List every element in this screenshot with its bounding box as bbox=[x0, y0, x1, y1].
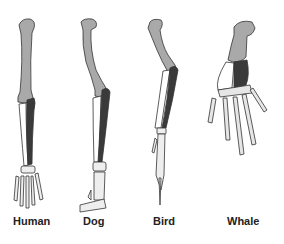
bird-hand bbox=[152, 128, 166, 205]
label-human: Human bbox=[13, 215, 50, 227]
label-whale: Whale bbox=[227, 215, 259, 227]
whale-limb bbox=[208, 21, 267, 155]
human-ulna bbox=[27, 98, 35, 165]
whale-radius bbox=[217, 62, 234, 90]
label-dog: Dog bbox=[83, 215, 104, 227]
whale-humerus bbox=[228, 21, 255, 62]
human-limb bbox=[14, 19, 43, 208]
dog-paw bbox=[80, 162, 106, 212]
label-bird: Bird bbox=[153, 215, 175, 227]
dog-limb bbox=[80, 19, 110, 212]
human-humerus bbox=[18, 19, 35, 103]
bird-limb bbox=[148, 19, 178, 205]
whale-ulna bbox=[234, 60, 248, 88]
dog-humerus bbox=[81, 19, 106, 97]
whale-flipper bbox=[208, 85, 267, 155]
bird-humerus bbox=[148, 19, 176, 72]
human-hand bbox=[14, 166, 43, 208]
